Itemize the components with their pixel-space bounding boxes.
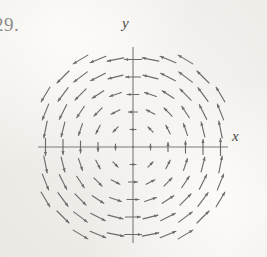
x-axis-label: x [232,128,239,145]
field-arrow [59,175,66,190]
field-arrow [146,110,155,114]
field-arrow [142,57,159,61]
field-arrow [92,196,104,204]
field-arrow [77,106,85,118]
field-arrow [75,194,86,205]
field-arrow [183,124,187,136]
field-arrow [162,196,174,204]
field-arrow [44,156,48,173]
field-arrow [178,55,193,64]
field-arrow [182,106,190,118]
field-arrow [201,157,205,172]
field-arrow [216,192,225,207]
field-arrow [61,157,65,172]
field-arrow [146,180,155,184]
field-arrow [197,71,209,83]
field-arrow [77,176,85,188]
field-arrow [179,212,193,222]
field-arrow [74,72,88,82]
field-arrow [143,214,158,218]
field-arrow [180,194,191,205]
field-arrow [91,73,106,80]
field-arrow [164,108,172,116]
field-arrow [58,88,68,102]
field-arrow [73,55,88,64]
field-arrow [58,193,68,207]
field-arrow [108,215,123,219]
vector-field-plot [0,0,267,257]
field-arrow [145,92,157,96]
field-arrow [79,159,83,171]
field-arrow [178,230,193,239]
field-arrow [161,213,176,220]
field-arrow [91,213,106,220]
field-arrow [57,71,69,83]
field-arrow [217,174,223,190]
field-arrow [110,93,122,97]
field-arrow [145,197,157,201]
field-dot [132,146,134,148]
field-arrow [199,175,206,190]
field-arrow [130,163,136,166]
field-arrow [160,231,176,237]
field-arrow [110,198,122,202]
field-arrow [184,159,188,171]
field-arrow [60,122,64,137]
field-arrow [90,56,106,62]
field-arrow [217,104,223,120]
field-arrow [149,144,152,150]
field-arrow [96,125,100,134]
y-axis-label: y [122,15,129,32]
field-arrow [94,178,102,186]
field-arrow [41,87,50,102]
field-arrow [198,193,208,207]
field-arrow [111,180,120,184]
axes-group [38,47,228,243]
field-arrow [161,73,176,80]
field-arrow [166,125,170,134]
field-arrow [57,211,69,223]
field-arrow [108,75,123,79]
field-arrow [160,56,176,62]
field-arrow [92,91,104,99]
field-arrow [198,88,208,102]
field-arrow [219,156,223,173]
field-arrow [59,105,66,120]
field-arrow [74,212,88,222]
vector-field-figure: y x [0,0,267,257]
field-arrow [148,127,153,132]
field-arrow [107,233,124,237]
field-arrow [114,144,117,150]
field-arrow [111,110,120,114]
field-arrow [182,176,190,188]
field-arrow [107,58,124,62]
field-arrow [42,104,48,120]
field-arrow [218,121,222,138]
field-arrow [197,211,209,223]
field-arrow [179,72,193,82]
field-arrow [75,89,86,100]
field-arrow [42,174,48,190]
field-arrow [164,178,172,186]
field-arrow [73,230,88,239]
field-arrow [162,91,174,99]
field-arrow [180,89,191,100]
field-arrow [113,162,118,167]
field-arrow [90,231,106,237]
field-arrow [166,160,170,169]
field-arrow [148,162,153,167]
field-arrow [200,122,204,137]
field-arrow [113,127,118,132]
field-arrow [143,74,158,78]
field-arrow [199,105,206,120]
field-arrow [41,192,50,207]
field-arrow [96,160,100,169]
field-arrow [94,108,102,116]
field-arrow [78,124,82,136]
field-arrow [43,121,47,138]
field-arrow [130,128,136,131]
field-arrow [216,87,225,102]
field-arrow [142,232,159,236]
